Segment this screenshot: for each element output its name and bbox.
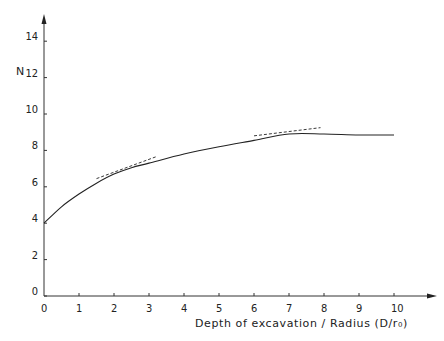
y-tick-label: 8	[32, 139, 38, 152]
y-axis-arrow-icon	[42, 14, 47, 24]
y-tick-label: 10	[25, 103, 38, 116]
x-tick-label: 9	[356, 302, 362, 315]
y-tick-label: 2	[32, 249, 38, 262]
x-tick-label: 3	[146, 302, 152, 315]
y-tick-label: 6	[32, 176, 38, 189]
x-tick-label: 6	[251, 302, 257, 315]
y-tick-label: 14	[25, 30, 38, 43]
x-tick-label: 2	[111, 302, 117, 315]
x-tick-label: 7	[286, 302, 292, 315]
tick-labels: 01234567891002468101214	[25, 30, 403, 315]
x-tick-label: 4	[181, 302, 187, 315]
y-axis-title: N	[16, 65, 24, 78]
axes	[44, 18, 432, 296]
y-tick-label: 12	[25, 67, 38, 80]
ticks	[44, 41, 394, 296]
y-tick-label: 0	[32, 285, 38, 298]
x-axis-title: Depth of excavation / Radius (D/r₀)	[195, 317, 408, 330]
y-tick-label: 4	[32, 212, 38, 225]
tangent-line-1	[97, 157, 157, 179]
x-tick-label: 0	[41, 302, 47, 315]
x-tick-label: 10	[391, 302, 404, 315]
chart: 01234567891002468101214 N Depth of excav…	[0, 0, 444, 341]
x-tick-label: 1	[76, 302, 82, 315]
x-axis-arrow-icon	[427, 294, 437, 299]
x-tick-label: 5	[216, 302, 222, 315]
series	[44, 128, 394, 224]
x-tick-label: 8	[321, 302, 327, 315]
